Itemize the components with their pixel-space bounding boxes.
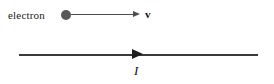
velocity-arrow-shaft (71, 14, 135, 15)
velocity-arrow-head-icon (133, 11, 140, 17)
physics-diagram: electron v I (0, 0, 274, 84)
current-label: I (134, 63, 138, 79)
electron-dot-icon (61, 10, 71, 20)
velocity-label: v (145, 7, 151, 21)
current-arrow-head-icon (132, 49, 143, 59)
electron-label: electron (8, 8, 45, 22)
